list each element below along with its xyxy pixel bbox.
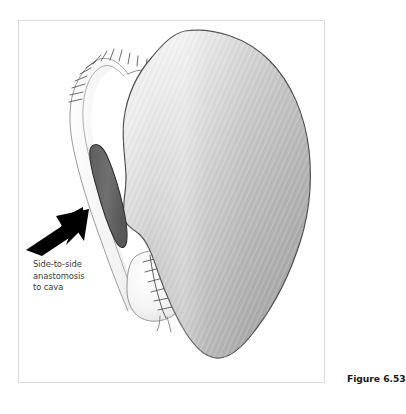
callout-line-3: to cava	[33, 282, 129, 294]
figure-caption: Figure 6.53	[347, 373, 406, 384]
callout-line-2: anastomosis	[33, 271, 129, 283]
callout-line-1: Side-to-side	[33, 259, 129, 271]
callout-label: Side-to-side anastomosis to cava	[33, 259, 129, 294]
pointer-arrow	[26, 207, 89, 256]
